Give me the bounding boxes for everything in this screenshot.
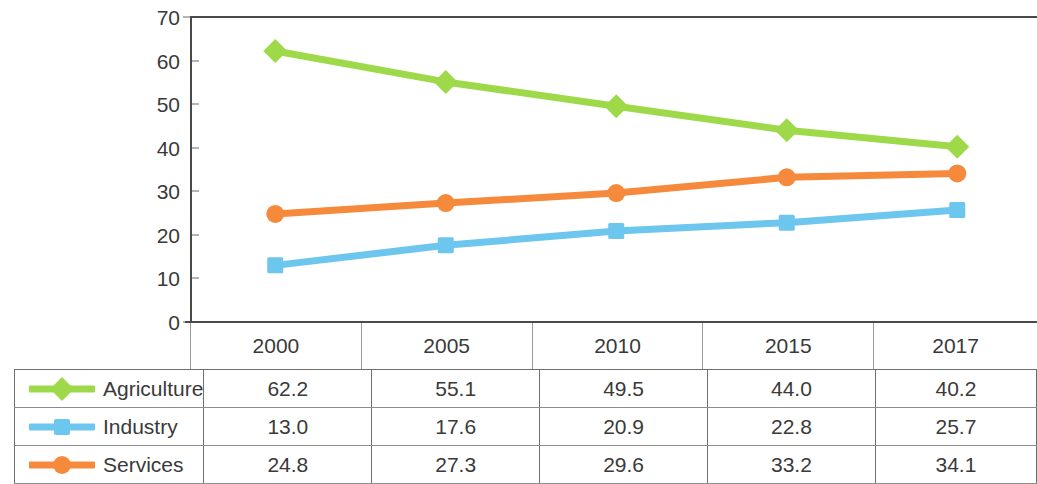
x-axis-category-label: 2015 (702, 323, 873, 369)
data-point-marker (434, 70, 458, 94)
data-point-marker (438, 237, 454, 253)
data-point-marker (608, 223, 624, 239)
legend-circle-icon (29, 452, 95, 478)
table-cell-value: 33.2 (708, 446, 876, 484)
legend-label: Industry (103, 415, 178, 439)
table-cell-value: 29.6 (540, 446, 708, 484)
x-axis-category-row: 20002005201020152017 (190, 323, 1037, 369)
series-agriculture (263, 39, 969, 159)
table-cell-value: 24.8 (204, 446, 372, 484)
data-table-body: Agriculture62.255.149.544.040.2Industry1… (15, 370, 1037, 484)
x-axis-category-label: 2005 (361, 323, 532, 369)
data-point-marker (263, 39, 287, 63)
table-cell-value: 44.0 (708, 370, 876, 408)
x-axis-category-label: 2000 (190, 323, 361, 369)
data-point-marker (267, 257, 283, 273)
table-cell-value: 34.1 (875, 446, 1036, 484)
x-axis-category-label: 2017 (873, 323, 1037, 369)
legend-square-icon (29, 414, 95, 440)
series-lines-and-markers (0, 0, 1037, 345)
legend-label: Agriculture (103, 377, 203, 401)
table-cell-value: 40.2 (875, 370, 1036, 408)
table-row: Agriculture62.255.149.544.040.2 (15, 370, 1037, 408)
data-point-marker (607, 184, 625, 202)
data-point-marker (266, 205, 284, 223)
data-point-marker (778, 168, 796, 186)
data-point-marker (948, 164, 966, 182)
table-cell-value: 55.1 (372, 370, 540, 408)
table-cell-value: 20.9 (540, 408, 708, 446)
table-cell-value: 25.7 (875, 408, 1036, 446)
data-point-marker (437, 194, 455, 212)
legend-cell-industry: Industry (15, 408, 204, 446)
data-point-marker (779, 215, 795, 231)
data-point-marker (949, 202, 965, 218)
data-point-marker (945, 135, 969, 159)
data-table: Agriculture62.255.149.544.040.2Industry1… (14, 369, 1037, 484)
table-cell-value: 62.2 (204, 370, 372, 408)
table-cell-value: 49.5 (540, 370, 708, 408)
table-row: Services24.827.329.633.234.1 (15, 446, 1037, 484)
table-cell-value: 13.0 (204, 408, 372, 446)
legend-label: Services (103, 453, 184, 477)
data-point-marker (604, 94, 628, 118)
legend-cell-agriculture: Agriculture (15, 370, 204, 408)
legend-diamond-icon (29, 376, 95, 402)
table-cell-value: 17.6 (372, 408, 540, 446)
legend-cell-services: Services (15, 446, 204, 484)
data-point-marker (775, 118, 799, 142)
table-row: Industry13.017.620.922.825.7 (15, 408, 1037, 446)
x-axis-category-label: 2010 (532, 323, 703, 369)
chart-plot-region: 010203040506070 (0, 0, 1037, 345)
series-industry (267, 202, 965, 273)
table-cell-value: 22.8 (708, 408, 876, 446)
table-cell-value: 27.3 (372, 446, 540, 484)
